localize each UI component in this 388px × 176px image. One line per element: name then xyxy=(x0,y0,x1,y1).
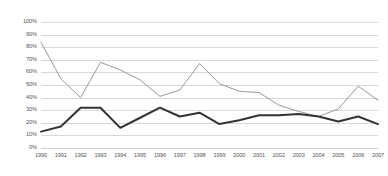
y-axis-tick-label: 0% xyxy=(0,145,37,151)
x-axis-tick-label: 2007 xyxy=(372,153,384,159)
line-chart: 100%90%80%70%60%50%40%30%20%10%0% 199019… xyxy=(0,0,388,176)
x-axis-tick-label: 2004 xyxy=(312,153,324,159)
x-axis-tick-label: 1992 xyxy=(75,153,87,159)
x-axis-tick-label: 2006 xyxy=(352,153,364,159)
x-axis: 1990199119921993199419951996199719981999… xyxy=(41,153,378,169)
x-axis-tick-label: 1999 xyxy=(213,153,225,159)
y-axis-tick-label: 60% xyxy=(0,70,37,76)
y-axis-tick-label: 80% xyxy=(0,44,37,50)
y-axis-tick-label: 90% xyxy=(0,32,37,38)
x-axis-tick-label: 2005 xyxy=(332,153,344,159)
x-axis-tick-label: 2000 xyxy=(233,153,245,159)
y-axis-tick-label: 100% xyxy=(0,19,37,25)
line-series-dark xyxy=(41,108,378,132)
y-axis-tick-label: 20% xyxy=(0,120,37,126)
x-axis-tick-label: 1998 xyxy=(194,153,206,159)
x-axis-tick-label: 1994 xyxy=(114,153,126,159)
x-axis-tick-label: 2003 xyxy=(293,153,305,159)
x-axis-tick-label: 2002 xyxy=(273,153,285,159)
x-axis-tick-label: 1990 xyxy=(35,153,47,159)
x-axis-tick-label: 2001 xyxy=(253,153,265,159)
gridline xyxy=(41,148,378,149)
x-axis-tick-label: 1993 xyxy=(94,153,106,159)
y-axis-tick-label: 50% xyxy=(0,82,37,88)
y-axis-tick-label: 40% xyxy=(0,95,37,101)
x-axis-tick-label: 1991 xyxy=(55,153,67,159)
series-layer xyxy=(41,22,378,148)
y-axis-tick-label: 30% xyxy=(0,107,37,113)
y-axis: 100%90%80%70%60%50%40%30%20%10%0% xyxy=(0,22,37,148)
y-axis-tick-label: 70% xyxy=(0,57,37,63)
x-axis-tick-label: 1995 xyxy=(134,153,146,159)
x-axis-tick-label: 1996 xyxy=(154,153,166,159)
y-axis-tick-label: 10% xyxy=(0,133,37,139)
x-axis-tick-label: 1997 xyxy=(174,153,186,159)
plot-area xyxy=(41,22,378,148)
line-series-gray xyxy=(41,42,378,116)
